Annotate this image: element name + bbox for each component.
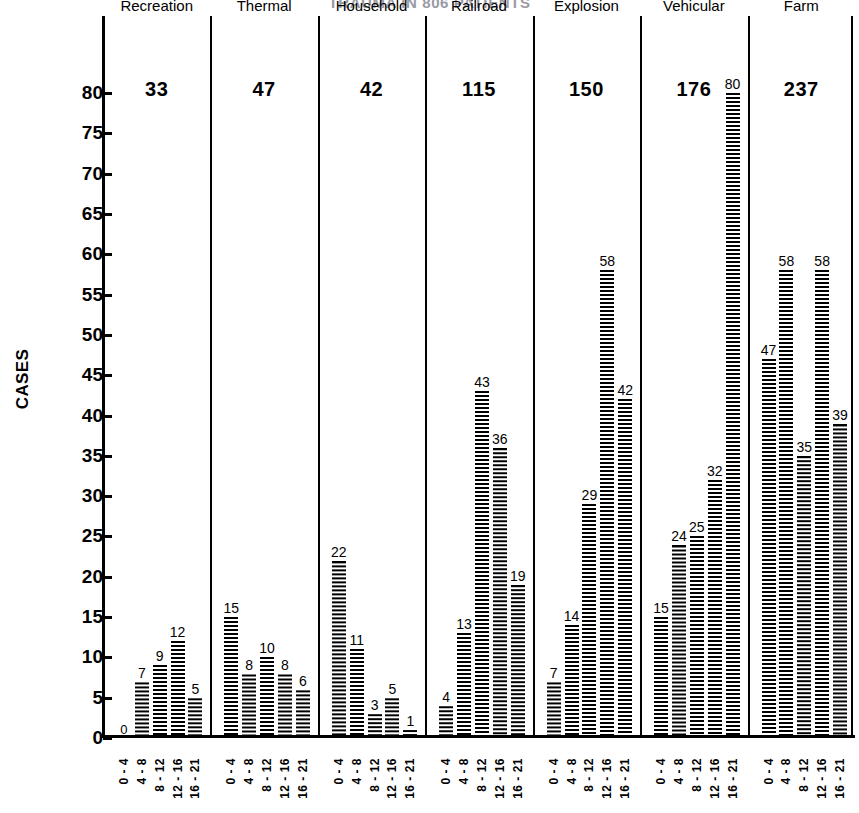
bar-value-label: 58 bbox=[814, 253, 830, 269]
bar-slot: 3612 - 16 bbox=[493, 16, 507, 738]
bar[interactable] bbox=[708, 480, 722, 738]
bar[interactable] bbox=[654, 617, 668, 738]
bar-value-label: 5 bbox=[192, 681, 200, 697]
bar[interactable] bbox=[439, 706, 453, 738]
bar-value-label: 25 bbox=[689, 519, 705, 535]
y-tick-mark bbox=[103, 455, 112, 458]
age-group-tick-label: 0 - 4 bbox=[332, 758, 346, 785]
bar[interactable] bbox=[278, 674, 292, 739]
bar-slot: 98 - 12 bbox=[153, 16, 167, 738]
y-tick-mark bbox=[103, 697, 112, 700]
bar[interactable] bbox=[242, 674, 256, 739]
bar-value-label: 19 bbox=[510, 568, 526, 584]
bar[interactable] bbox=[511, 585, 525, 738]
category-label: Gunshot; Explosion bbox=[533, 0, 640, 16]
bar-value-label: 24 bbox=[671, 528, 687, 544]
bar[interactable] bbox=[260, 657, 274, 738]
bar-value-label: 35 bbox=[796, 439, 812, 455]
bar-value-label: 1 bbox=[406, 713, 414, 729]
y-tick-label: 30 bbox=[57, 485, 103, 507]
y-tick-label: 5 bbox=[57, 687, 103, 709]
bar[interactable] bbox=[762, 359, 776, 738]
y-tick-mark bbox=[103, 576, 112, 579]
bar[interactable] bbox=[457, 633, 471, 738]
y-tick-mark bbox=[103, 294, 112, 297]
bar-value-label: 8 bbox=[281, 657, 289, 673]
y-tick-label: 35 bbox=[57, 445, 103, 467]
bar[interactable] bbox=[690, 536, 704, 738]
bar-slot: 116 - 21 bbox=[403, 16, 417, 738]
bar-slot: 358 - 12 bbox=[797, 16, 811, 738]
bar[interactable] bbox=[779, 270, 793, 738]
bar[interactable] bbox=[547, 682, 561, 738]
y-tick-mark bbox=[103, 173, 112, 176]
bar-slot: 584 - 8 bbox=[779, 16, 793, 738]
bar[interactable] bbox=[350, 649, 364, 738]
bar-slot: 00 - 4 bbox=[117, 16, 131, 738]
bar[interactable] bbox=[475, 391, 489, 738]
bar[interactable] bbox=[582, 504, 596, 738]
bar[interactable] bbox=[135, 682, 149, 738]
bar-value-label: 36 bbox=[492, 431, 508, 447]
bar-value-label: 47 bbox=[761, 342, 777, 358]
age-group-tick-label: 0 - 4 bbox=[547, 758, 561, 785]
bar-value-label: 80 bbox=[725, 76, 741, 92]
bar[interactable] bbox=[833, 424, 847, 738]
bar-slot: 244 - 8 bbox=[672, 16, 686, 738]
bar[interactable] bbox=[672, 545, 686, 739]
bar[interactable] bbox=[171, 641, 185, 738]
age-group-tick-label: 16 - 21 bbox=[833, 758, 847, 799]
y-tick-label: 70 bbox=[57, 163, 103, 185]
bar-value-label: 10 bbox=[259, 640, 275, 656]
x-axis-baseline bbox=[103, 735, 855, 738]
bar-value-label: 15 bbox=[653, 600, 669, 616]
category-group-gunshot-explosion: Gunshot; Explosion15070 - 4144 - 8298 - … bbox=[533, 16, 640, 738]
bar[interactable] bbox=[493, 448, 507, 738]
bar-set: 00 - 474 - 898 - 121212 - 16516 - 21 bbox=[103, 16, 210, 738]
bar-set: 220 - 4114 - 838 - 12512 - 16116 - 21 bbox=[318, 16, 425, 738]
bar[interactable] bbox=[385, 698, 399, 738]
age-group-tick-label: 0 - 4 bbox=[762, 758, 776, 785]
bar-slot: 38 - 12 bbox=[368, 16, 382, 738]
bar[interactable] bbox=[296, 690, 310, 738]
bar-value-label: 43 bbox=[474, 374, 490, 390]
bar[interactable] bbox=[188, 698, 202, 738]
y-tick-label: 80 bbox=[57, 82, 103, 104]
bar-slot: 1916 - 21 bbox=[511, 16, 525, 738]
y-tick-label: 65 bbox=[57, 203, 103, 225]
bar[interactable] bbox=[726, 93, 740, 738]
bar-slot: 298 - 12 bbox=[582, 16, 596, 738]
y-tick-mark bbox=[103, 253, 112, 256]
age-group-tick-label: 8 - 12 bbox=[368, 758, 382, 792]
category-group-vehicular: Vehicular176150 - 4244 - 8258 - 123212 -… bbox=[640, 16, 747, 738]
bar[interactable] bbox=[332, 561, 346, 738]
bar-slot: 84 - 8 bbox=[242, 16, 256, 738]
bar-slot: 812 - 16 bbox=[278, 16, 292, 738]
bar-value-label: 32 bbox=[707, 463, 723, 479]
bar-value-label: 14 bbox=[564, 608, 580, 624]
bar[interactable] bbox=[815, 270, 829, 738]
bar[interactable] bbox=[600, 270, 614, 738]
bar[interactable] bbox=[224, 617, 238, 738]
bar-value-label: 3 bbox=[371, 697, 379, 713]
category-group-childhood-recreation: Childhood Recreation3300 - 474 - 898 - 1… bbox=[103, 16, 210, 738]
bar[interactable] bbox=[797, 456, 811, 738]
age-group-tick-label: 4 - 8 bbox=[457, 758, 471, 785]
bar-value-label: 12 bbox=[170, 624, 186, 640]
y-tick-mark bbox=[103, 656, 112, 659]
plot-area: Childhood Recreation3300 - 474 - 898 - 1… bbox=[103, 16, 855, 738]
y-tick-label: 40 bbox=[57, 405, 103, 427]
bar[interactable] bbox=[153, 665, 167, 738]
category-group-railroad: Railroad11540 - 4134 - 8438 - 123612 - 1… bbox=[425, 16, 532, 738]
age-group-tick-label: 4 - 8 bbox=[672, 758, 686, 785]
bar-value-label: 58 bbox=[779, 253, 795, 269]
y-tick-mark bbox=[103, 213, 112, 216]
category-label: Thermal bbox=[210, 0, 317, 16]
bar[interactable] bbox=[618, 399, 632, 738]
bar-slot: 114 - 8 bbox=[350, 16, 364, 738]
category-label: Railroad bbox=[425, 0, 532, 16]
bar-set: 40 - 4134 - 8438 - 123612 - 161916 - 21 bbox=[425, 16, 532, 738]
bar[interactable] bbox=[565, 625, 579, 738]
bar-value-label: 6 bbox=[299, 673, 307, 689]
bar-slot: 150 - 4 bbox=[224, 16, 238, 738]
